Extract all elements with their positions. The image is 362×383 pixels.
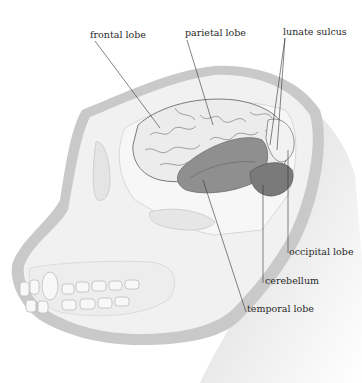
label-cerebellum: cerebellum: [265, 276, 319, 286]
label-frontal-lobe: frontal lobe: [90, 30, 146, 40]
label-temporal-lobe: temporal lobe: [247, 304, 314, 314]
label-parietal-lobe: parietal lobe: [185, 28, 246, 38]
skull-brain-diagram: frontal lobe parietal lobe lunate sulcus…: [0, 0, 362, 383]
label-occipital-lobe: occipital lobe: [289, 247, 354, 257]
label-lunate-sulcus: lunate sulcus: [283, 27, 347, 37]
diagram-illustration: [0, 0, 362, 383]
